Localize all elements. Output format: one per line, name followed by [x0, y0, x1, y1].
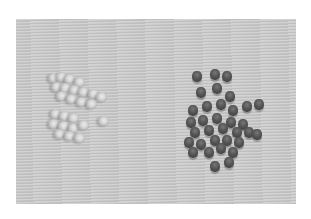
dark-bead — [188, 105, 198, 116]
dark-bead — [234, 137, 244, 148]
dark-bead — [210, 69, 220, 80]
dark-bead — [224, 157, 234, 168]
clear-bead — [98, 116, 109, 126]
dark-bead — [252, 129, 262, 140]
dark-bead — [222, 71, 232, 82]
clear-bead — [68, 113, 79, 123]
dark-bead — [218, 123, 228, 134]
clear-bead — [86, 99, 97, 109]
clear-bead — [74, 133, 85, 143]
dark-bead — [212, 83, 222, 94]
dark-bead — [204, 147, 214, 158]
dark-bead — [210, 161, 220, 172]
dark-bead — [190, 127, 200, 138]
clear-bead — [96, 92, 107, 102]
dark-bead — [196, 87, 206, 98]
dark-bead — [202, 101, 212, 112]
dark-bead — [216, 143, 226, 154]
dark-bead — [254, 99, 264, 110]
dark-bead — [225, 91, 235, 102]
dark-bead — [242, 101, 252, 112]
dark-bead — [188, 147, 198, 158]
clear-bead — [78, 120, 89, 130]
dark-bead — [216, 99, 226, 110]
dark-bead — [192, 71, 202, 82]
dark-bead — [228, 105, 238, 116]
bead-photo — [16, 19, 296, 204]
